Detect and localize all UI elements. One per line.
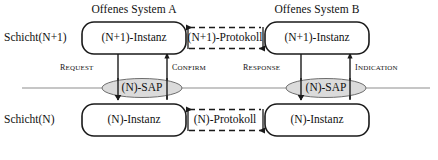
- protocol-label-n: (N)-Protokoll: [194, 114, 257, 126]
- entity-label-a-n-plus-1: (N+1)-Instanz: [101, 32, 166, 44]
- primitive-label-indication: Indication: [355, 61, 398, 72]
- diagram-canvas: [0, 0, 438, 160]
- sap-label-a: (N)-SAP: [122, 82, 163, 94]
- sap-label-b: (N)-SAP: [306, 82, 347, 94]
- protocol-label-n-plus-1: (N+1)-Protokoll: [188, 32, 263, 44]
- entity-label-b-n-plus-1: (N+1)-Instanz: [284, 32, 349, 44]
- entity-label-b-n: (N)-Instanz: [290, 114, 343, 126]
- primitive-label-confirm: Confirm: [172, 61, 206, 72]
- protocol-layer-diagram: Offenes System A Offenes System B Schich…: [0, 0, 438, 160]
- system-title-a: Offenes System A: [91, 4, 176, 16]
- layer-label-n-plus-1: Schicht(N+1): [4, 32, 67, 44]
- primitive-label-request: Request: [60, 61, 94, 72]
- system-title-b: Offenes System B: [274, 4, 359, 16]
- layer-label-n: Schicht(N): [4, 114, 54, 126]
- entity-label-a-n: (N)-Instanz: [107, 114, 160, 126]
- primitive-label-response: Response: [243, 61, 280, 72]
